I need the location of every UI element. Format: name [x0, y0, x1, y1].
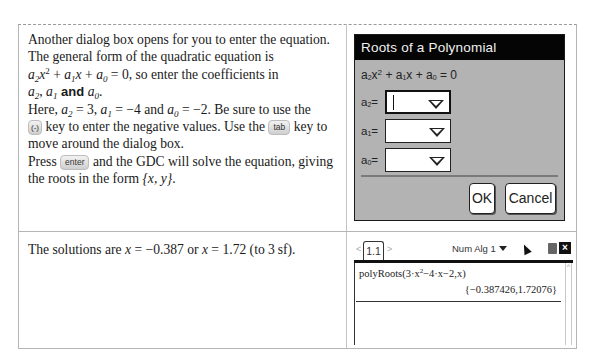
- close-icon[interactable]: ×: [559, 242, 571, 254]
- mouse-pointer-icon: [520, 243, 531, 255]
- calculator-tab-bar: < 1.1 > Num Alg 1 ×: [354, 239, 573, 261]
- entry-separator: [356, 301, 561, 302]
- coefficient-values: Here, a2 = 3, a1 = −4 and a0 = −2. Be su…: [28, 101, 343, 118]
- solution-text: The solutions are x = −0.387 or x = 1.72…: [28, 241, 343, 258]
- dropdown-arrow-icon[interactable]: [428, 100, 444, 109]
- calc-result[interactable]: {−0.387426,1.72076}: [465, 284, 557, 295]
- battery-icon: [548, 243, 557, 254]
- document-menu-arrow-icon: [499, 246, 507, 251]
- content-table: Another dialog box opens for you to ente…: [18, 24, 577, 349]
- dropdown-arrow-icon[interactable]: [429, 128, 445, 137]
- ok-button[interactable]: OK: [469, 183, 495, 214]
- coefficient-list: a2, a1 and a0.: [28, 83, 343, 100]
- field-label-a0: a0=: [361, 154, 378, 166]
- text-line: move around the dialog box.: [28, 135, 343, 152]
- tab-right-arrow-icon[interactable]: >: [387, 244, 392, 254]
- column-divider: [346, 25, 347, 348]
- tab-1-1[interactable]: 1.1: [363, 241, 384, 261]
- general-equation: a2x2 + a1x + a0 = 0, so enter the coeffi…: [28, 66, 343, 83]
- tab-left-arrow-icon[interactable]: <: [356, 244, 361, 254]
- field-label-a2: a2=: [361, 96, 378, 108]
- a1-input[interactable]: [385, 119, 451, 143]
- a2-input[interactable]: [385, 90, 451, 114]
- scrollbar[interactable]: ^: [565, 263, 572, 345]
- enter-key-icon: enter: [60, 155, 89, 170]
- roots-of-polynomial-dialog: Roots of a Polynomial a2x2 + a1x + a0 = …: [354, 34, 565, 221]
- calculator-screen: < 1.1 > Num Alg 1 × polyRoots(3·x2−4·x−2…: [354, 239, 573, 345]
- text-caret: [393, 95, 394, 110]
- enter-instruction: Press enter and the GDC will solve the e…: [28, 153, 343, 170]
- negative-key-icon: (-): [28, 120, 42, 135]
- key-instructions: (-) key to enter the negative values. Us…: [28, 118, 343, 135]
- instruction-text: Another dialog box opens for you to ente…: [28, 31, 343, 188]
- text-line: Another dialog box opens for you to ente…: [28, 31, 343, 48]
- scroll-up-icon[interactable]: ^: [565, 263, 572, 270]
- dropdown-arrow-icon[interactable]: [429, 157, 445, 166]
- dialog-equation: a2x2 + a1x + a0 = 0: [361, 68, 457, 82]
- roots-form-line: the roots in the form {x, y}.: [28, 170, 343, 187]
- document-name[interactable]: Num Alg 1: [452, 243, 507, 254]
- dialog-separator: [361, 175, 558, 177]
- a0-input[interactable]: [385, 148, 451, 172]
- tab-key-icon: tab: [268, 120, 290, 135]
- cancel-button[interactable]: Cancel: [505, 183, 556, 214]
- field-label-a1: a1=: [361, 125, 378, 137]
- dialog-title: Roots of a Polynomial: [355, 35, 564, 60]
- calculator-history: polyRoots(3·x2−4·x−2,x) {−0.387426,1.720…: [354, 263, 567, 345]
- text-line: The general form of the quadratic equati…: [28, 48, 343, 65]
- row-divider: [19, 231, 576, 232]
- calc-entry[interactable]: polyRoots(3·x2−4·x−2,x): [359, 268, 466, 279]
